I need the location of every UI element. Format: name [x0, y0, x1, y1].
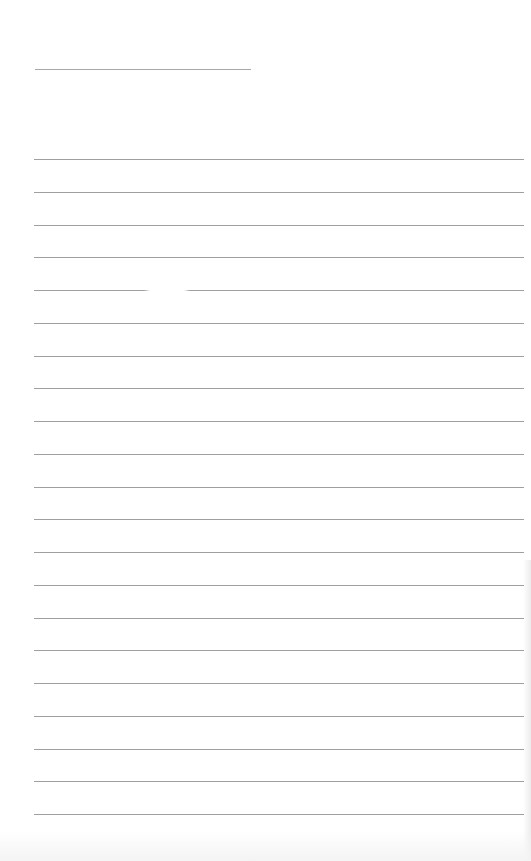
ruled-line: [34, 487, 524, 488]
ruled-line: [34, 192, 524, 193]
ruled-line: [34, 225, 524, 226]
ruled-line: [34, 749, 524, 750]
ruled-line: [34, 781, 524, 782]
ruled-line: [34, 323, 524, 324]
ruled-line: [34, 388, 524, 389]
ruled-line: [34, 290, 524, 291]
ruled-line: [34, 159, 524, 160]
ruled-line: [34, 552, 524, 553]
ruled-line: [34, 585, 524, 586]
ruled-line: [34, 716, 524, 717]
ruled-line: [34, 814, 524, 815]
ruled-line: [34, 356, 524, 357]
ruled-line: [34, 618, 524, 619]
ruled-line: [34, 519, 524, 520]
page-edge-shadow: [523, 560, 531, 861]
notepad-page: [0, 0, 531, 861]
ruled-line: [34, 257, 524, 258]
ruled-line: [34, 650, 524, 651]
ruled-line: [34, 421, 524, 422]
header-title-line: [35, 69, 251, 70]
ruled-line: [34, 683, 524, 684]
ruled-line: [34, 454, 524, 455]
